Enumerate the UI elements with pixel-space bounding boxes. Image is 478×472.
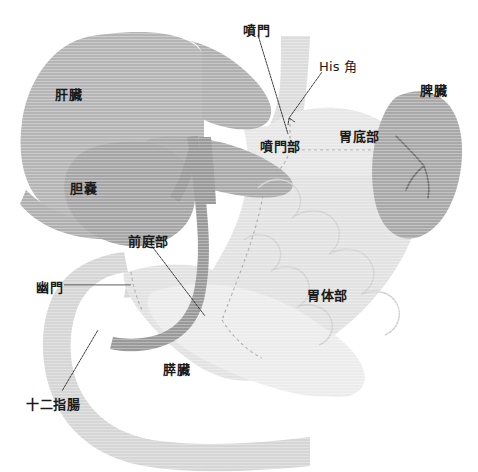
label-gallbladder: 胆嚢 [70, 182, 97, 195]
label-cardia: 噴門 [243, 24, 270, 37]
label-body: 胃体部 [307, 289, 348, 302]
label-liver: 肝臓 [55, 88, 82, 101]
label-pancreas: 膵臓 [163, 363, 190, 376]
label-spleen: 脾臓 [420, 84, 447, 97]
label-pylorus: 幽門 [36, 281, 63, 294]
label-duodenum: 十二指腸 [26, 398, 80, 411]
label-cardia-region: 噴門部 [260, 140, 301, 153]
label-antrum: 前庭部 [128, 235, 169, 248]
anatomy-figure: 肝臓 胆嚢 噴門 His 角 脾臓 噴門部 胃底部 前庭部 幽門 胃体部 膵臓 … [0, 0, 478, 472]
label-fundus: 胃底部 [339, 130, 380, 143]
label-his-angle: His 角 [319, 60, 357, 73]
